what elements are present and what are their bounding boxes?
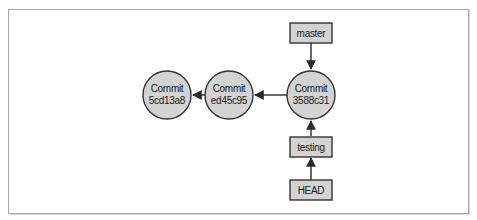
commit-hash: ed45c95 <box>211 95 248 106</box>
commit-label: Commit <box>295 83 328 94</box>
ref-label: testing <box>297 142 324 153</box>
ref-testing: testing <box>290 137 332 157</box>
commit-hash: 3588c31 <box>293 95 330 106</box>
ref-label: master <box>297 28 327 39</box>
ref-label: HEAD <box>298 185 325 196</box>
ref-head: HEAD <box>290 180 332 200</box>
commit-node-5cd13a8: Commit 5cd13a8 <box>143 71 191 119</box>
commit-hash: 5cd13a8 <box>149 95 186 106</box>
ref-master: master <box>290 23 332 43</box>
git-graph-diagram: Commit 5cd13a8 Commit ed45c95 Commit 358… <box>0 0 477 220</box>
commit-node-ed45c95: Commit ed45c95 <box>205 71 253 119</box>
commit-label: Commit <box>213 83 246 94</box>
commit-label: Commit <box>151 83 184 94</box>
commit-node-3588c31: Commit 3588c31 <box>287 71 335 119</box>
